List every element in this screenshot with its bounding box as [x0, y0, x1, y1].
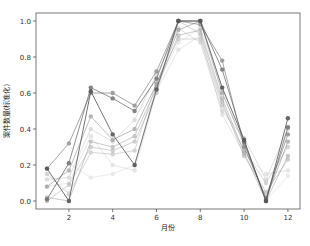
data-point-marker [67, 161, 71, 165]
data-point-marker [132, 127, 136, 131]
y-tick-label: 0.0 [20, 198, 31, 206]
data-point-marker [89, 150, 93, 154]
data-point-marker [67, 175, 71, 179]
data-point-marker [220, 58, 224, 62]
data-point-marker [111, 163, 115, 167]
x-axis-label: 月份 [161, 223, 175, 232]
data-point-marker [111, 138, 115, 142]
data-point-marker [67, 199, 71, 203]
x-tick-label: 2 [67, 214, 71, 222]
data-point-marker [132, 139, 136, 143]
data-point-marker [45, 197, 49, 201]
data-point-marker [132, 163, 136, 167]
data-point-marker [132, 109, 136, 113]
data-point-marker [111, 145, 115, 149]
data-point-marker [132, 168, 136, 172]
data-point-marker [220, 67, 224, 71]
data-point-marker [45, 172, 49, 176]
data-point-marker [89, 127, 93, 131]
data-point-marker [45, 184, 49, 188]
y-tick-label: 0.6 [20, 90, 32, 98]
x-tick-label: 10 [240, 214, 249, 222]
data-point-marker [242, 138, 246, 142]
data-point-marker [286, 174, 290, 178]
data-point-marker [154, 87, 158, 91]
data-point-marker [67, 141, 71, 145]
data-point-marker [45, 177, 49, 181]
data-point-marker [89, 114, 93, 118]
data-point-marker [89, 89, 93, 93]
data-point-marker [220, 85, 224, 89]
data-point-marker [176, 28, 180, 32]
data-point-marker [132, 103, 136, 107]
data-point-marker [89, 139, 93, 143]
data-point-marker [264, 181, 268, 185]
data-point-marker [286, 154, 290, 158]
y-tick-label: 0.2 [20, 162, 31, 170]
data-point-marker [67, 168, 71, 172]
y-tick-label: 0.4 [20, 126, 32, 134]
data-point-marker [154, 76, 158, 80]
data-point-marker [67, 183, 71, 187]
data-point-marker [132, 148, 136, 152]
data-point-marker [111, 172, 115, 176]
data-point-marker [176, 19, 180, 23]
y-tick-label: 1.0 [20, 18, 31, 26]
data-point-marker [45, 166, 49, 170]
data-point-marker [264, 199, 268, 203]
data-point-marker [176, 48, 180, 52]
data-point-marker [89, 134, 93, 138]
x-tick-label: 6 [154, 214, 159, 222]
data-point-marker [286, 116, 290, 120]
data-point-marker [132, 118, 136, 122]
data-point-marker [198, 28, 202, 32]
data-point-marker [132, 134, 136, 138]
x-tick-label: 4 [110, 214, 115, 222]
data-point-marker [198, 19, 202, 23]
data-point-marker [154, 69, 158, 73]
data-point-marker [111, 132, 115, 136]
data-point-marker [111, 91, 115, 95]
x-tick-label: 12 [283, 214, 292, 222]
data-point-marker [286, 168, 290, 172]
y-tick-label: 0.8 [20, 54, 31, 62]
y-axis-label: 案件数量(标准化) [2, 84, 11, 139]
x-tick-label: 8 [198, 214, 202, 222]
line-chart: 24681012 0.00.20.40.60.81.0 月份 案件数量(标准化) [0, 0, 310, 246]
data-point-marker [89, 175, 93, 179]
data-point-marker [111, 96, 115, 100]
